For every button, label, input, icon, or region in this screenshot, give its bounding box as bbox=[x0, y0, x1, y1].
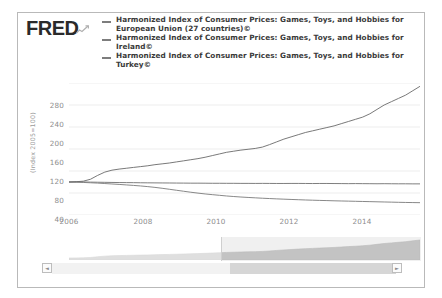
y-axis-tick: 280 bbox=[34, 101, 64, 110]
y-axis-tick: 120 bbox=[34, 177, 64, 186]
legend-color-swatch-icon bbox=[102, 21, 111, 23]
legend-item[interactable]: Harmonized Index of Consumer Prices: Gam… bbox=[102, 52, 420, 69]
legend-item-label: Harmonized Index of Consumer Prices: Gam… bbox=[116, 16, 420, 33]
scrollbar-track[interactable] bbox=[52, 263, 392, 274]
legend-color-swatch-icon bbox=[102, 57, 111, 59]
navigator-dim-left bbox=[69, 238, 221, 260]
fred-chart-widget: FRED Harmonized Index of Consumer Prices… bbox=[17, 12, 425, 288]
x-axis-tick: 2014 bbox=[342, 217, 382, 226]
legend-item-label: Harmonized Index of Consumer Prices: Gam… bbox=[116, 34, 420, 51]
chart-plot-svg[interactable] bbox=[69, 83, 420, 215]
legend-item[interactable]: Harmonized Index of Consumer Prices: Gam… bbox=[102, 34, 420, 51]
y-axis-tick: 240 bbox=[34, 120, 64, 129]
fred-logo: FRED bbox=[26, 17, 78, 40]
x-axis-tick: 2008 bbox=[123, 217, 163, 226]
x-axis-tick: 2006 bbox=[49, 217, 89, 226]
x-axis-tick: 2010 bbox=[196, 217, 236, 226]
scroll-left-button[interactable]: ◄ bbox=[42, 263, 52, 273]
navigator[interactable] bbox=[69, 238, 420, 260]
scroll-right-button[interactable]: ► bbox=[392, 263, 402, 273]
y-axis-tick: 160 bbox=[34, 158, 64, 167]
legend-color-swatch-icon bbox=[102, 39, 111, 41]
plot-area: (Index 2005=100) 280 240 200 160 120 80 … bbox=[18, 83, 425, 233]
mini-line-chart-icon bbox=[76, 25, 89, 35]
legend-item[interactable]: Harmonized Index of Consumer Prices: Gam… bbox=[102, 16, 420, 33]
chart-scrollbar[interactable]: ◄ ► bbox=[42, 263, 402, 274]
y-axis-tick: 80 bbox=[34, 196, 64, 205]
scrollbar-thumb[interactable] bbox=[230, 263, 396, 274]
y-axis-tick: 200 bbox=[34, 139, 64, 148]
chart-legend: Harmonized Index of Consumer Prices: Gam… bbox=[102, 16, 420, 71]
x-axis-tick: 2012 bbox=[269, 217, 309, 226]
chart-header: FRED Harmonized Index of Consumer Prices… bbox=[18, 13, 424, 85]
legend-item-label: Harmonized Index of Consumer Prices: Gam… bbox=[116, 52, 420, 69]
navigator-selection-handle[interactable] bbox=[221, 237, 421, 261]
